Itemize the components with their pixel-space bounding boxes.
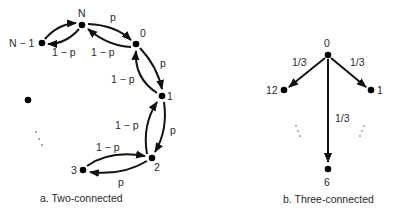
node-6 — [325, 166, 332, 173]
node-0 — [133, 41, 140, 48]
node-1 — [159, 93, 166, 100]
edge-2-to-3 — [90, 161, 147, 173]
two-connected-diagram: N N − 1 0 1 2 3 1 − p p 1 − p p 1 − p p … — [9, 7, 176, 204]
node-label-n-minus-1: N − 1 — [9, 37, 35, 49]
node-12 — [281, 87, 288, 94]
edge-2-to-1 — [146, 102, 157, 154]
edge-label-to-12: 1/3 — [292, 56, 307, 68]
node-label-1: 1 — [167, 90, 173, 102]
ellipsis-dots-right — [359, 125, 364, 136]
three-connected-diagram: 0 12 1 6 1/3 1/3 1/3 b. Three-connected — [266, 37, 383, 205]
edge-0-to-1 — [140, 48, 162, 89]
edge-label-n-to-nm1: 1 − p — [52, 46, 76, 58]
node-3 — [80, 167, 87, 174]
edge-label-3-to-2: 1 − p — [96, 141, 120, 153]
edge-0-to-n — [88, 29, 131, 47]
node-label-0: 0 — [324, 37, 330, 49]
node-label-1: 1 — [377, 84, 383, 96]
edge-1-to-2 — [155, 102, 165, 152]
edge-label-1-to-2: p — [170, 124, 176, 136]
edge-label-1-to-0: 1 − p — [111, 73, 135, 85]
node-n — [79, 22, 86, 29]
edge-label-to-1: 1/3 — [350, 56, 365, 68]
edge-label-0-to-1: p — [160, 57, 166, 69]
caption-two-connected: a. Two-connected — [40, 192, 123, 204]
edge-1-to-0 — [136, 51, 157, 93]
node-label-6: 6 — [324, 176, 330, 188]
node-n-minus-1 — [39, 40, 46, 47]
node-1 — [368, 87, 375, 94]
node-label-n: N — [78, 7, 86, 19]
ellipsis-dots — [35, 131, 43, 146]
edge-label-to-6: 1/3 — [335, 112, 350, 124]
node-isolated — [25, 97, 32, 104]
edge-3-to-2 — [87, 154, 145, 166]
node-label-12: 12 — [266, 84, 278, 96]
edge-label-n-to-0: p — [110, 11, 116, 23]
edge-n-to-0 — [88, 24, 131, 40]
diagram-canvas: N N − 1 0 1 2 3 1 − p p 1 − p p 1 − p p … — [0, 0, 393, 216]
node-0 — [325, 52, 332, 59]
node-label-3: 3 — [71, 164, 77, 176]
ellipsis-dots-left — [295, 125, 300, 136]
node-label-0: 0 — [140, 27, 146, 39]
node-label-2: 2 — [154, 161, 160, 173]
edge-label-2-to-3: p — [118, 176, 124, 188]
edge-label-0-to-n: 1 − p — [91, 46, 115, 58]
caption-three-connected: b. Three-connected — [283, 193, 374, 205]
edge-label-2-to-1: 1 − p — [115, 119, 139, 131]
